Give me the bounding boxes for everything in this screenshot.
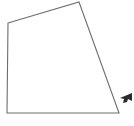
mouse-cursor-icon [120,93,132,103]
quadrilateral-shape [7,2,119,113]
quadrilateral-diagram-svg [0,0,134,126]
figure-canvas [0,0,134,126]
